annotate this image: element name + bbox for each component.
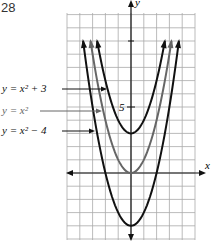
- arrowhead-icon: [95, 39, 101, 48]
- y-axis-label: y: [134, 0, 140, 8]
- y-tick-label-5: 5: [119, 101, 125, 113]
- x-axis-label: x: [204, 159, 210, 171]
- y-axis-down-arrow-icon: [128, 234, 134, 241]
- label-y-equals-x-squared-plus-3: y = x² + 3: [1, 82, 47, 94]
- arrowhead-icon: [81, 39, 87, 48]
- label-y-equals-x-squared: y = x²: [1, 104, 29, 116]
- y-axis-up-arrow-icon: [128, 0, 134, 7]
- graph: 5xyy = x² + 3y = x²y = x² − 4: [0, 0, 214, 243]
- arrowhead-icon: [161, 39, 167, 48]
- arrowhead-icon: [167, 39, 173, 48]
- leader-arrow-icon: [96, 109, 102, 114]
- arrowhead-icon: [89, 39, 95, 48]
- leader-arrow-icon: [89, 129, 95, 134]
- label-y-equals-x-squared-minus-4: y = x² − 4: [1, 124, 47, 136]
- arrowhead-icon: [175, 39, 181, 48]
